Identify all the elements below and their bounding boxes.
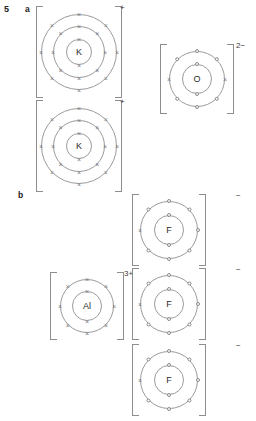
ion-charge-k-2: + [120,98,125,106]
element-symbol: Al [83,302,91,311]
element-symbol: F [166,226,172,235]
ion-f-2: ×F [132,194,206,266]
bracket-right [227,44,234,114]
element-symbol: K [76,142,82,151]
atom-f: ×F [137,348,201,412]
worksheet-canvas: 5 a b ××××××××××××××××××K+××××××××××××××… [0,0,256,421]
ion-o-3: ××O [160,44,234,114]
part-label-b: b [18,190,23,200]
ion-charge-o-3: 2− [236,42,245,50]
atom-f: ×F [137,198,201,262]
bracket-left [50,272,57,340]
ion-f-4: ×F [132,344,206,416]
bracket-right [117,272,124,340]
atom-al: ××××××××××Al [57,276,117,336]
element-symbol: O [193,75,200,84]
question-number: 5 [4,4,9,14]
element-symbol: F [166,300,172,309]
ion-charge-f-3: − [236,266,241,274]
element-symbol: F [166,376,172,385]
ion-k-2: ××××××××××××××××××K [36,100,122,192]
ion-k-1: ××××××××××××××××××K [36,6,122,98]
ion-charge-f-4: − [236,342,241,350]
atom-k: ××××××××××××××××××K [40,13,118,91]
part-label-a: a [25,4,30,14]
ion-charge-f-2: − [236,192,241,200]
element-symbol: K [76,48,82,57]
atom-f: ×F [137,272,201,336]
atom-k: ××××××××××××××××××K [40,107,118,185]
ion-charge-k-1: + [120,4,125,12]
atom-o: ××O [166,48,228,110]
ion-f-3: ×F [132,268,206,340]
ion-al-1: ××××××××××Al [50,272,124,340]
